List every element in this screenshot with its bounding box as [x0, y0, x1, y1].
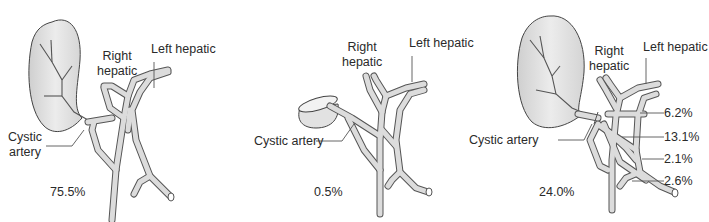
panel-variant-origin-2: Right hepatic Left hepatic Cystic artery… — [240, 0, 460, 222]
right-hepatic-label: Right hepatic — [589, 44, 629, 74]
sub-variant-percentage-2: 13.1% — [664, 130, 699, 144]
cystic-artery-label: Cystic artery — [254, 134, 323, 149]
right-hepatic-label: Right hepatic — [97, 49, 137, 79]
right-hepatic-label-line2: hepatic — [342, 55, 382, 70]
gallbladder — [517, 16, 584, 128]
anatomy-illustration-1 — [0, 0, 240, 222]
panel-typical-origin: Right hepatic Left hepatic Cystic artery… — [0, 0, 240, 222]
cystic-artery-label: Cystic artery — [469, 133, 538, 148]
sub-variant-percentage-3: 2.1% — [664, 152, 693, 166]
sub-variant-percentage-4: 2.6% — [664, 174, 693, 188]
cystic-artery-label: Cystic artery — [8, 130, 42, 160]
right-hepatic-label-line2: hepatic — [97, 64, 137, 79]
right-hepatic-label-line1: Right — [589, 44, 629, 59]
percentage-label: 0.5% — [314, 185, 343, 199]
cystic-artery-label-line2: artery — [8, 145, 42, 160]
panel-variant-origin-3: Right hepatic Left hepatic Cystic artery… — [460, 0, 709, 222]
right-hepatic-label-line2: hepatic — [589, 59, 629, 74]
percentage-label: 75.5% — [50, 185, 85, 199]
percentage-label: 24.0% — [539, 185, 574, 199]
left-hepatic-label: Left hepatic — [151, 42, 216, 57]
right-hepatic-label: Right hepatic — [342, 40, 382, 70]
cystic-artery-label-line1: Cystic — [8, 130, 42, 145]
gallbladder — [29, 20, 82, 132]
sub-variant-percentage-1: 6.2% — [664, 106, 693, 120]
right-hepatic-label-line1: Right — [97, 49, 137, 64]
right-hepatic-label-line1: Right — [342, 40, 382, 55]
anatomy-illustration-2 — [240, 0, 460, 222]
left-hepatic-label: Left hepatic — [643, 40, 708, 55]
